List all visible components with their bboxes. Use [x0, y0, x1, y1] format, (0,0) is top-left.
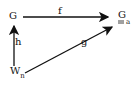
label-h: h	[15, 37, 21, 47]
node-g: G	[9, 11, 17, 21]
label-g: g	[81, 37, 87, 47]
node-g-a-subscript: a	[126, 18, 130, 26]
node-w-n-subscript: n	[20, 72, 25, 80]
node-w-n: Wn	[10, 66, 25, 77]
node-g-a-main: G	[118, 9, 126, 20]
node-g-a: Ga	[118, 10, 130, 21]
arrow-g	[25, 27, 112, 73]
node-w-n-main: W	[10, 65, 20, 76]
label-f: f	[58, 6, 62, 16]
